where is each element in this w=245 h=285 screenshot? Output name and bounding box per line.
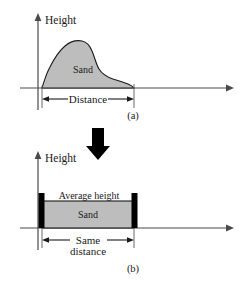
figure-root: Sand Distance Height (a): [0, 0, 245, 285]
panel-a-height-axis-label: Height: [45, 14, 77, 27]
panel-b: Average height Sand Same distance Height…: [20, 151, 234, 275]
panel-a-caption: (a): [127, 110, 139, 122]
down-arrow-icon: [86, 128, 110, 160]
panel-a-sand-label: Sand: [73, 64, 93, 75]
panel-a: Sand Distance Height (a): [20, 13, 234, 122]
panel-b-height-axis-label: Height: [45, 152, 77, 165]
panel-b-right-post: [132, 193, 138, 228]
panel-b-average-height-label: Average height: [59, 190, 120, 201]
figure-canvas: Sand Distance Height (a): [0, 0, 245, 285]
panel-b-distance-label-line2: distance: [70, 245, 106, 257]
panel-a-y-axis: [35, 13, 42, 110]
panel-a-distance-label: Distance: [69, 93, 108, 105]
panel-b-left-post: [39, 193, 45, 228]
panel-b-distance-dimension: Same distance: [42, 234, 134, 257]
panel-b-sand-label: Sand: [78, 209, 98, 220]
panel-a-distance-dimension: Distance: [42, 93, 134, 105]
panel-b-caption: (b): [127, 263, 140, 275]
